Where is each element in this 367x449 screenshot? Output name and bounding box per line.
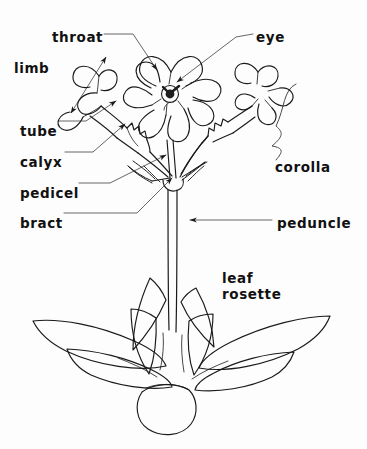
label-peduncle: peduncle	[277, 216, 351, 232]
label-limb: limb	[14, 61, 49, 77]
label-throat: throat	[52, 30, 103, 46]
diagram-root: throat eye limb tube calyx pedicel bract…	[0, 0, 367, 449]
label-corolla: corolla	[275, 160, 331, 176]
label-bract: bract	[20, 216, 63, 232]
label-calyx: calyx	[20, 155, 62, 171]
label-leaf-rosette: leaf rosette	[222, 270, 281, 303]
label-pedicel: pedicel	[20, 186, 79, 202]
label-tube: tube	[20, 124, 57, 140]
label-eye: eye	[256, 30, 285, 46]
